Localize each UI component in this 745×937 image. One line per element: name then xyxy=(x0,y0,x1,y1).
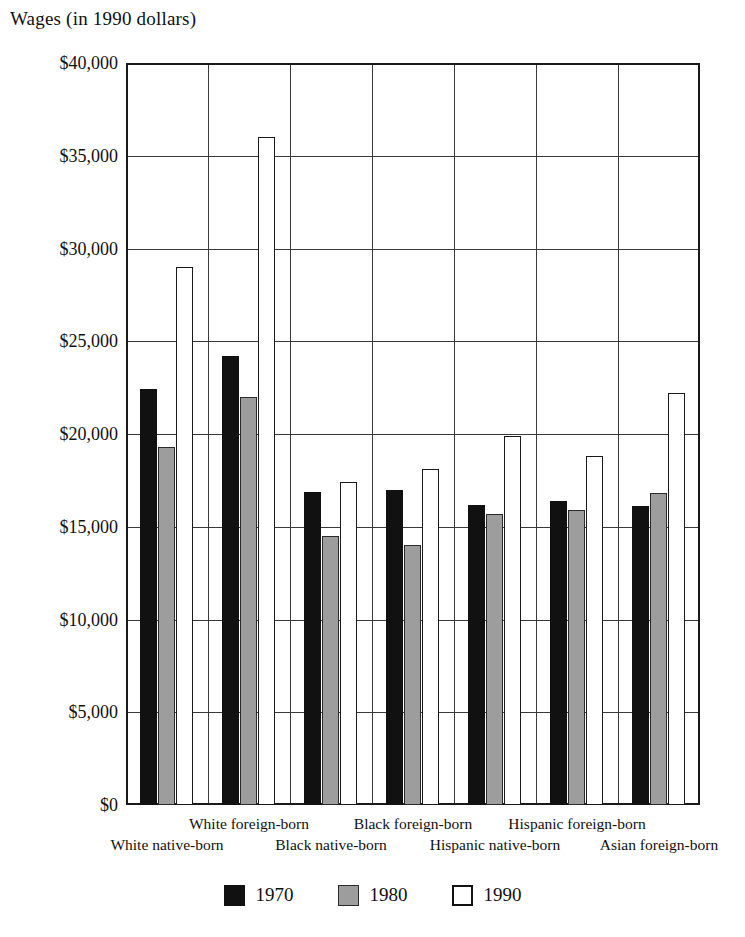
y-axis-tick-label: $10,000 xyxy=(8,609,118,630)
legend-item-1970[interactable]: 1970 xyxy=(224,884,294,906)
y-axis: $0$5,000$10,000$15,000$20,000$25,000$30,… xyxy=(0,0,118,937)
y-axis-tick-label: $35,000 xyxy=(8,145,118,166)
y-axis-tick-label: $15,000 xyxy=(8,516,118,537)
chart-container: Wages (in 1990 dollars) $0$5,000$10,000$… xyxy=(0,0,745,937)
bar-1970-black-native-born xyxy=(304,492,321,805)
bar-1990-white-foreign-born xyxy=(258,137,275,805)
bar-1980-hispanic-native-born xyxy=(486,514,503,805)
y-axis-tick-label: $40,000 xyxy=(8,53,118,74)
bars-layer xyxy=(126,63,700,805)
x-axis-label: Asian foreign-born xyxy=(600,836,718,854)
bar-1970-asian-foreign-born xyxy=(632,506,649,805)
legend-label: 1990 xyxy=(484,884,522,906)
bar-1980-asian-foreign-born xyxy=(650,493,667,805)
bar-1990-hispanic-foreign-born xyxy=(586,456,603,805)
y-axis-tick-label: $5,000 xyxy=(8,702,118,723)
legend-item-1980[interactable]: 1980 xyxy=(338,884,408,906)
x-axis-label: Hispanic foreign-born xyxy=(508,815,645,833)
y-axis-tick-label: $25,000 xyxy=(8,331,118,352)
bar-1970-white-foreign-born xyxy=(222,356,239,805)
x-axis-label: White foreign-born xyxy=(189,815,309,833)
legend-item-1990[interactable]: 1990 xyxy=(452,884,522,906)
gray-filled-square-icon xyxy=(338,885,359,906)
x-axis-labels: White native-bornWhite foreign-bornBlack… xyxy=(0,806,745,856)
bar-1980-white-foreign-born xyxy=(240,397,257,805)
x-axis-label: Black native-born xyxy=(275,836,386,854)
bar-1970-hispanic-foreign-born xyxy=(550,501,567,805)
legend-label: 1970 xyxy=(256,884,294,906)
bar-1990-black-foreign-born xyxy=(422,469,439,805)
white-outlined-square-icon xyxy=(452,885,473,906)
bar-1980-white-native-born xyxy=(158,447,175,805)
y-axis-tick-label: $20,000 xyxy=(8,424,118,445)
bar-1990-hispanic-native-born xyxy=(504,436,521,805)
bar-1970-white-native-born xyxy=(140,389,157,805)
bar-1980-hispanic-foreign-born xyxy=(568,510,585,805)
y-axis-tick-label: $30,000 xyxy=(8,238,118,259)
bar-1970-black-foreign-born xyxy=(386,490,403,805)
legend-label: 1980 xyxy=(370,884,408,906)
bar-1990-white-native-born xyxy=(176,267,193,805)
bar-1980-black-foreign-born xyxy=(404,545,421,805)
x-axis-label: Black foreign-born xyxy=(354,815,472,833)
x-axis-label: White native-born xyxy=(110,836,223,854)
black-filled-square-icon xyxy=(224,885,245,906)
bar-1970-hispanic-native-born xyxy=(468,505,485,806)
bar-1990-asian-foreign-born xyxy=(668,393,685,805)
bar-1980-black-native-born xyxy=(322,536,339,805)
bar-1990-black-native-born xyxy=(340,482,357,805)
x-axis-label: Hispanic native-born xyxy=(430,836,560,854)
chart-legend: 197019801990 xyxy=(0,884,745,906)
